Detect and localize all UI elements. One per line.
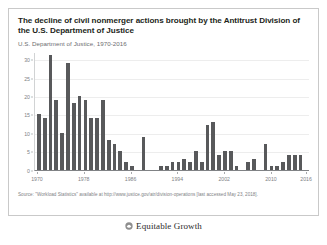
bar[interactable] [130, 166, 134, 170]
bar[interactable] [118, 151, 122, 169]
bar-slot [303, 53, 309, 170]
x-axis-tick-label: 2016 [300, 176, 312, 182]
bar[interactable] [43, 118, 47, 170]
bar[interactable] [171, 162, 175, 169]
x-axis-tick-mark [131, 172, 132, 174]
bar[interactable] [194, 151, 198, 169]
bar[interactable] [49, 55, 53, 169]
y-axis-tick-label: 5 [27, 149, 30, 155]
bar[interactable] [299, 155, 303, 170]
x-axis-tick-label: 2002 [218, 176, 230, 182]
bar[interactable] [252, 159, 256, 170]
bar[interactable] [211, 122, 215, 170]
bar[interactable] [235, 166, 239, 170]
y-axis-tick-label: 25 [24, 76, 30, 82]
bar[interactable] [206, 125, 210, 169]
bar[interactable] [229, 151, 233, 169]
plot-wrapper: 051015202530 197019781986199420022010201… [18, 53, 309, 181]
x-axis-tick-label: 1970 [31, 176, 43, 182]
bar[interactable] [142, 137, 146, 170]
bar[interactable] [165, 166, 169, 170]
brand-name: Equitable Growth [136, 221, 202, 231]
x-axis: 1970197819861994200220102016 [34, 172, 309, 184]
bar[interactable] [217, 155, 221, 170]
bar[interactable] [270, 166, 274, 170]
x-axis-tick-mark [37, 172, 38, 174]
y-axis-tick-label: 20 [24, 94, 30, 100]
chart-subtitle: U.S. Department of Justice, 1970-2016 [18, 40, 309, 47]
bar[interactable] [293, 155, 297, 170]
bar[interactable] [188, 162, 192, 169]
y-axis-tick-mark [31, 133, 33, 134]
y-axis: 051015202530 [18, 53, 33, 171]
bar[interactable] [177, 162, 181, 169]
bar[interactable] [246, 162, 250, 169]
y-axis-tick-mark [31, 170, 33, 171]
bar[interactable] [182, 159, 186, 170]
brand-footer: Equitable Growth [0, 221, 327, 231]
bar[interactable] [72, 103, 76, 169]
x-axis-tick-mark [84, 172, 85, 174]
bar[interactable] [101, 100, 105, 170]
equitable-growth-circle-icon [125, 222, 133, 230]
y-axis-tick-mark [31, 96, 33, 97]
bar[interactable] [107, 140, 111, 170]
x-axis-tick-label: 1986 [125, 176, 137, 182]
x-axis-tick-mark [271, 172, 272, 174]
y-axis-tick-label: 0 [27, 168, 30, 174]
bar[interactable] [78, 96, 82, 170]
bar[interactable] [54, 100, 58, 170]
source-note: Source: "Workload Statistics" available … [18, 192, 309, 197]
bar[interactable] [281, 162, 285, 169]
plot-area [34, 53, 309, 171]
y-axis-tick-mark [31, 60, 33, 61]
x-axis-tick-label: 1978 [78, 176, 90, 182]
bar[interactable] [159, 166, 163, 170]
bar[interactable] [287, 155, 291, 170]
chart-figure: The decline of civil nonmerger actions b… [8, 8, 319, 216]
x-axis-tick-label: 2010 [265, 176, 277, 182]
bar[interactable] [113, 144, 117, 170]
y-axis-tick-label: 30 [24, 57, 30, 63]
bar[interactable] [264, 144, 268, 170]
x-axis-tick-label: 1994 [172, 176, 184, 182]
bar-series [35, 53, 309, 170]
chart-header: The decline of civil nonmerger actions b… [9, 9, 318, 47]
x-axis-tick-mark [306, 172, 307, 174]
bar[interactable] [66, 63, 70, 170]
bar[interactable] [95, 118, 99, 170]
bar[interactable] [84, 100, 88, 170]
bar[interactable] [124, 162, 128, 169]
y-axis-tick-mark [31, 152, 33, 153]
x-axis-tick-mark [177, 172, 178, 174]
bar[interactable] [37, 114, 41, 169]
x-axis-tick-mark [224, 172, 225, 174]
bar[interactable] [275, 166, 279, 170]
chart-title: The decline of civil nonmerger actions b… [18, 16, 309, 37]
bar[interactable] [89, 118, 93, 170]
y-axis-tick-mark [31, 78, 33, 79]
y-axis-tick-label: 10 [24, 131, 30, 137]
bar[interactable] [223, 151, 227, 169]
bar[interactable] [200, 162, 204, 169]
bar[interactable] [60, 133, 64, 170]
y-axis-tick-mark [31, 115, 33, 116]
y-axis-tick-label: 15 [24, 112, 30, 118]
